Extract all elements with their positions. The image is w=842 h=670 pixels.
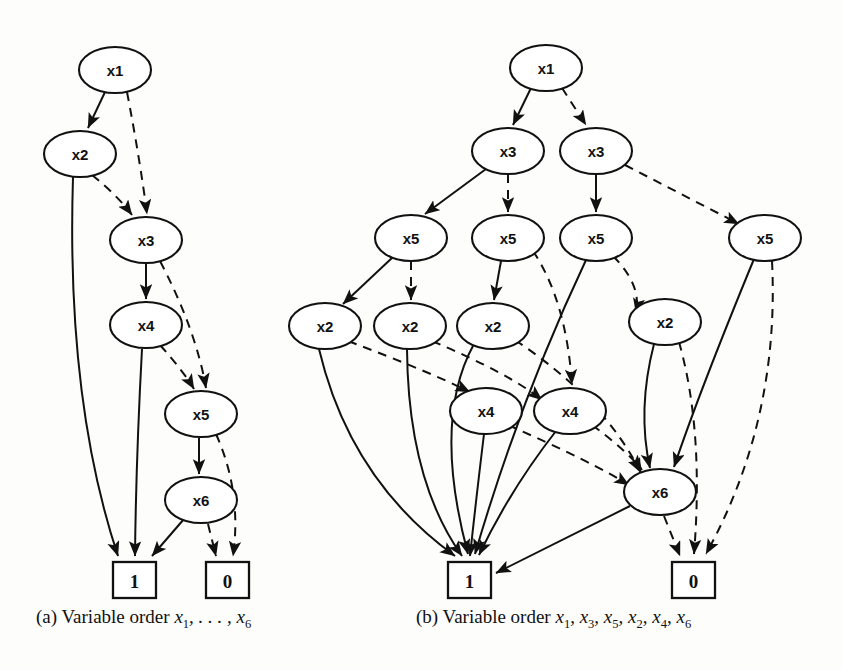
edge-b-x5d-x6-solid bbox=[674, 259, 754, 467]
edge-b-x6-t0-dashed bbox=[664, 516, 680, 556]
edge-b-x1-x3b-dashed bbox=[562, 88, 586, 125]
node-label: x1 bbox=[107, 62, 124, 79]
node-b-x6[interactable]: x6 bbox=[624, 469, 696, 515]
edge-a-x4-t1-solid bbox=[135, 349, 142, 556]
node-a-x1[interactable]: x1 bbox=[79, 47, 151, 93]
node-label: x5 bbox=[193, 406, 210, 423]
edge-b-x3a-x5a-solid bbox=[425, 169, 486, 214]
terminal-label: 0 bbox=[689, 571, 699, 592]
node-label: x4 bbox=[138, 317, 155, 334]
edge-b-x5b-x2c-solid bbox=[494, 261, 501, 300]
edge-a-x1-x2-solid bbox=[88, 92, 105, 128]
edge-b-x5a-x2a-solid bbox=[343, 257, 393, 304]
node-b-x5-2[interactable]: x5 bbox=[472, 215, 544, 261]
node-b-x5-3[interactable]: x5 bbox=[560, 215, 632, 261]
edge-b-x2a-t1-solid bbox=[319, 349, 455, 556]
edge-b-x5b-x2d-or-x4b-dashed bbox=[533, 251, 572, 384]
node-b-x2-2[interactable]: x2 bbox=[374, 303, 446, 349]
terminal-b-one[interactable]: 1 bbox=[448, 562, 491, 598]
node-b-x3-left[interactable]: x3 bbox=[472, 128, 544, 174]
edge-b-x2b-t1-solid bbox=[407, 349, 462, 556]
edge-a-x2-x3-dashed bbox=[92, 175, 132, 215]
node-label: x3 bbox=[138, 232, 155, 249]
node-label: x6 bbox=[652, 484, 669, 501]
edge-a-x6-t0-dashed bbox=[208, 524, 216, 556]
node-label: x2 bbox=[402, 318, 419, 335]
edge-b-x6-t1-solid bbox=[496, 506, 630, 573]
edge-b-x1-x3a-solid bbox=[513, 88, 531, 125]
bdd-figure: x1 x2 x3 x4 x5 x6 bbox=[0, 0, 842, 670]
node-label: x5 bbox=[500, 230, 517, 247]
node-b-x2-4[interactable]: x2 bbox=[629, 299, 701, 345]
diagram-a: x1 x2 x3 x4 x5 x6 bbox=[44, 47, 249, 598]
diagram-b-terminals: 1 0 bbox=[448, 562, 715, 598]
edge-a-x1-x3-dashed bbox=[127, 92, 147, 214]
node-label: x2 bbox=[485, 318, 502, 335]
node-b-x4-1[interactable]: x4 bbox=[450, 388, 522, 434]
edge-b-x4b-t1-solid bbox=[479, 431, 556, 555]
terminal-a-one[interactable]: 1 bbox=[113, 562, 156, 598]
node-label: x2 bbox=[72, 146, 89, 163]
node-a-x6[interactable]: x6 bbox=[165, 477, 237, 523]
node-label: x3 bbox=[500, 143, 517, 160]
edge-b-x2d-t0-dashed bbox=[679, 342, 697, 554]
edge-b-x4b-x6-dashed bbox=[592, 425, 642, 470]
node-label: x1 bbox=[538, 60, 555, 77]
node-a-x4[interactable]: x4 bbox=[110, 302, 182, 348]
node-a-x5[interactable]: x5 bbox=[165, 391, 237, 437]
caption-a-vars: x1, . . . , x6 bbox=[174, 606, 251, 627]
node-label: x5 bbox=[403, 230, 420, 247]
edge-b-x4a-t1-solid bbox=[470, 434, 484, 556]
edge-b-x2d-x6-solid bbox=[644, 344, 654, 468]
node-label: x5 bbox=[757, 230, 774, 247]
caption-b-vars: x1, x3, x5, x2, x4, x6 bbox=[555, 606, 691, 627]
node-b-x3-right[interactable]: x3 bbox=[560, 128, 632, 174]
node-label: x6 bbox=[193, 492, 210, 509]
node-label: x4 bbox=[562, 403, 579, 420]
caption-a: (a) Variable order x1, . . . , x6 bbox=[36, 606, 251, 632]
diagram-a-terminals: 1 0 bbox=[113, 562, 249, 598]
node-b-x1[interactable]: x1 bbox=[510, 45, 582, 91]
node-b-x5-1[interactable]: x5 bbox=[375, 215, 447, 261]
edge-b-x2c-t1-solid bbox=[451, 344, 474, 554]
edge-a-x4-x5-dashed bbox=[160, 345, 194, 389]
terminal-a-zero[interactable]: 0 bbox=[206, 562, 249, 598]
node-a-x2[interactable]: x2 bbox=[44, 131, 116, 177]
node-b-x2-1[interactable]: x2 bbox=[289, 303, 361, 349]
terminal-b-zero[interactable]: 0 bbox=[672, 562, 715, 598]
node-label: x2 bbox=[657, 314, 674, 331]
node-b-x2-3[interactable]: x2 bbox=[457, 303, 529, 349]
diagram-b: x1 x3 x3 x5 x5 x5 bbox=[289, 45, 801, 598]
node-b-x5-4[interactable]: x5 bbox=[729, 215, 801, 261]
node-label: x3 bbox=[588, 143, 605, 160]
terminal-label: 1 bbox=[130, 571, 140, 592]
node-label: x4 bbox=[478, 403, 495, 420]
caption-b: (b) Variable order x1, x3, x5, x2, x4, x… bbox=[416, 606, 691, 632]
terminal-label: 1 bbox=[465, 571, 475, 592]
edge-b-x5d-t0-dashed bbox=[706, 261, 773, 554]
edge-a-x6-t1-solid bbox=[152, 519, 184, 556]
node-label: x2 bbox=[317, 318, 334, 335]
node-label: x5 bbox=[588, 230, 605, 247]
node-b-x4-2[interactable]: x4 bbox=[534, 388, 606, 434]
terminal-label: 0 bbox=[223, 571, 233, 592]
edge-b-x5c-x2d-dashed bbox=[613, 256, 637, 313]
caption-a-prefix: (a) Variable order bbox=[36, 606, 174, 627]
edge-b-x3b-x5d-dashed bbox=[625, 165, 739, 224]
caption-b-prefix: (b) Variable order bbox=[416, 606, 555, 627]
node-a-x3[interactable]: x3 bbox=[110, 217, 182, 263]
